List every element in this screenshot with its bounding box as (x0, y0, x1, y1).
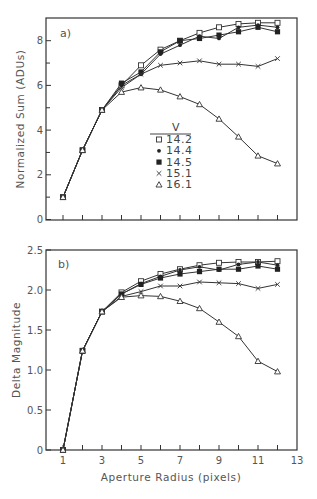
y-tick-label: 0 (37, 445, 43, 456)
series-14-5-marker (158, 49, 163, 54)
legend-14-2-marker (157, 137, 162, 142)
legend-14-4-marker (157, 149, 161, 153)
panel-b-series (60, 259, 281, 453)
series-15-1-marker (275, 56, 280, 61)
panel-a-x-ticks (63, 215, 278, 220)
panel-a-label: a) (60, 27, 71, 40)
series-14-4-marker (276, 25, 280, 29)
y-tick-label: 6 (37, 80, 43, 91)
series-line-14-4 (63, 262, 278, 450)
x-tick-label: 11 (252, 455, 265, 466)
series-14-2-marker (275, 259, 280, 264)
series-14-5-marker (275, 267, 280, 272)
x-tick-label: 9 (216, 455, 222, 466)
panel-b-x-ticks: 135791113 (60, 445, 304, 466)
y-tick-label: 2.5 (27, 245, 43, 256)
series-14-5-marker (158, 275, 163, 280)
series-14-5-marker (177, 38, 182, 43)
y-tick-label: 1.0 (27, 365, 43, 376)
panel-a-plot: 02468 a) Normalized Sum (ADUs) V 14.214.… (14, 18, 297, 225)
y-tick-label: 2 (37, 169, 43, 180)
series-line-15-1 (63, 282, 278, 450)
x-tick-label: 13 (291, 455, 304, 466)
panel-b-y-axis-title: Delta Magnitude (10, 302, 22, 398)
series-14-2-marker (139, 63, 144, 68)
series-14-4-marker (256, 260, 260, 264)
series-14-4-marker (276, 263, 280, 267)
series-14-4-marker (178, 268, 182, 272)
series-14-2-marker (217, 25, 222, 30)
panel-b-y-ticks: 00.51.01.52.02.5 (27, 245, 51, 456)
series-14-5-marker (177, 271, 182, 276)
x-tick-label: 1 (60, 455, 66, 466)
series-14-5-marker (255, 263, 260, 268)
series-line-14-2 (63, 261, 278, 450)
series-14-5-marker (255, 25, 260, 30)
series-14-2-marker (275, 20, 280, 25)
series-line-14-5 (63, 266, 278, 450)
series-16-1-marker (138, 85, 144, 90)
series-16-1-marker (275, 369, 281, 374)
y-tick-label: 0.5 (27, 405, 43, 416)
series-14-5-marker (236, 29, 241, 34)
y-tick-label: 4 (37, 125, 43, 136)
series-16-1-marker (216, 319, 222, 324)
series-14-5-marker (236, 267, 241, 272)
x-tick-label: 7 (177, 455, 183, 466)
legend-16-1-marker (156, 182, 162, 187)
series-14-4-marker (178, 43, 182, 47)
series-14-5-marker (138, 282, 143, 287)
series-14-2-marker (217, 260, 222, 265)
x-tick-label: 5 (138, 455, 144, 466)
panel-a-y-axis-title: Normalized Sum (ADUs) (14, 50, 26, 189)
panel-a-y-ticks: 02468 (37, 35, 51, 225)
series-line-16-1 (63, 296, 278, 450)
y-tick-label: 2.0 (27, 285, 43, 296)
series-14-5-marker (216, 33, 221, 38)
panel-b-x-axis-title: Aperture Radius (pixels) (101, 471, 242, 483)
panel-b-plot: 00.51.01.52.02.5 135791113 b) Delta Magn… (10, 245, 303, 484)
series-14-5-marker (119, 81, 124, 86)
series-14-4-marker (237, 263, 241, 267)
legend-14-5-marker (156, 160, 161, 165)
legend-entries: 14.214.414.515.116.1 (156, 133, 193, 191)
y-tick-label: 0 (37, 214, 43, 225)
series-14-5-marker (197, 36, 202, 41)
series-14-5-marker (197, 269, 202, 274)
series-14-4-marker (237, 25, 241, 29)
series-14-5-marker (275, 29, 280, 34)
series-16-1-marker (236, 333, 242, 338)
series-14-5-marker (216, 267, 221, 272)
chart-figure: 02468 a) Normalized Sum (ADUs) V 14.214.… (0, 0, 317, 499)
legend: V 14.214.414.515.116.1 (150, 121, 193, 191)
legend-15-1-marker (157, 171, 162, 176)
y-tick-label: 8 (37, 35, 43, 46)
panel-b-label: b) (58, 258, 69, 271)
x-tick-label: 3 (99, 455, 105, 466)
legend-entry-label: 16.1 (166, 178, 193, 191)
series-14-4-marker (198, 265, 202, 269)
y-tick-label: 1.5 (27, 325, 43, 336)
